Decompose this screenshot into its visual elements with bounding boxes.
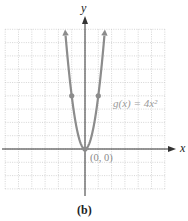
x-axis-arrow-icon [168,146,176,152]
data-point [82,146,87,151]
x-axis-label: x [180,141,185,156]
y-axis [82,16,88,196]
curve-arrow-icon [101,30,107,36]
data-point [69,93,74,98]
figure-caption: (b) [77,203,92,218]
data-point [96,93,101,98]
y-axis-label: y [81,1,86,16]
function-label: g(x) = 4x² [113,97,157,109]
y-axis-arrow-icon [82,16,88,24]
x-axis [2,146,176,152]
graph-figure [0,0,188,221]
curve-arrow-icon [62,30,68,36]
vertex-label: (0, 0) [90,152,113,163]
